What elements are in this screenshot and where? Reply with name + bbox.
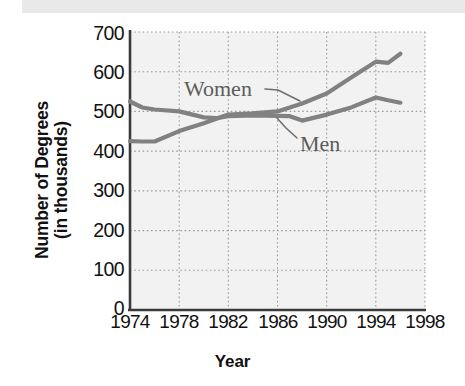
x-axis-tick-labels: 1974 1978 1982 1986 1990 1994 1998 (0, 311, 465, 341)
series-label-women: Women (184, 76, 252, 102)
series-label-men: Men (300, 131, 340, 157)
x-tick-1998: 1998 (396, 311, 454, 333)
chart-figure: Number of Degrees (in thousands) 700 600… (0, 0, 465, 386)
x-axis-title: Year (0, 352, 465, 372)
